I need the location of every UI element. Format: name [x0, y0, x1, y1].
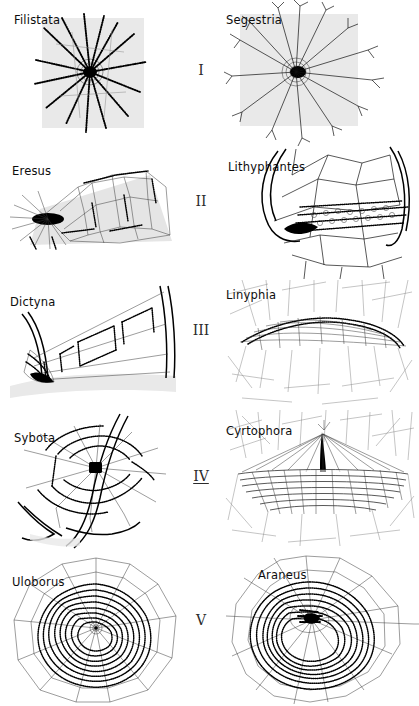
- row-numeral-2: II: [183, 193, 219, 209]
- genus-label-dictyna: Dictyna: [10, 295, 55, 309]
- web-figure-uloborus: [0, 550, 190, 706]
- web-architecture-plate: I Filistata Seges: [0, 0, 419, 706]
- row-numeral-5: V: [183, 612, 219, 628]
- plate-row-2: II Eresus: [0, 145, 419, 280]
- plate-row-5: V Uloborus: [0, 550, 419, 706]
- plate-row-1: I Filistata Seges: [0, 0, 419, 145]
- genus-label-segestria: Segestria: [226, 13, 282, 27]
- genus-label-sybota: Sybota: [14, 431, 55, 445]
- genus-label-eresus: Eresus: [12, 164, 51, 178]
- web-figure-araneus: [222, 550, 419, 706]
- plate-row-4: IV Sybota: [0, 410, 419, 550]
- genus-label-araneus: Araneus: [258, 568, 307, 582]
- genus-label-uloborus: Uloborus: [12, 575, 65, 589]
- row-numeral-4: IV: [183, 468, 219, 484]
- genus-label-filistata: Filistata: [14, 13, 60, 27]
- row-numeral-3: III: [183, 322, 219, 338]
- genus-label-cyrtophora: Cyrtophora: [226, 424, 293, 438]
- row-numeral-1: I: [183, 62, 219, 78]
- plate-row-3: III Dictyna: [0, 280, 419, 410]
- genus-label-lithyphantes: Lithyphantes: [228, 160, 305, 174]
- genus-label-linyphia: Linyphia: [226, 288, 276, 302]
